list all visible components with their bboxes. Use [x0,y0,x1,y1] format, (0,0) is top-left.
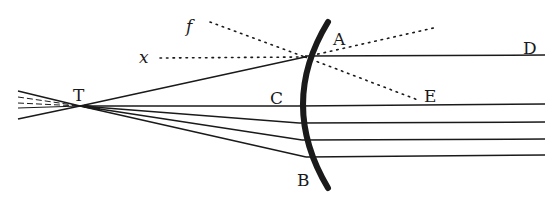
label-C: C [270,88,283,108]
label-f: f [184,16,195,36]
label-T: T [73,85,85,105]
reflected-rays [297,55,545,157]
label-D: D [523,38,537,58]
label-x: x [139,47,149,67]
construction-lines [160,22,438,100]
concave-mirror [303,22,328,188]
incoming-rays [18,91,80,119]
label-A: A [332,29,346,49]
label-E: E [424,86,436,106]
label-B: B [297,170,310,190]
optics-diagram: T A C B D E x f [0,0,552,203]
